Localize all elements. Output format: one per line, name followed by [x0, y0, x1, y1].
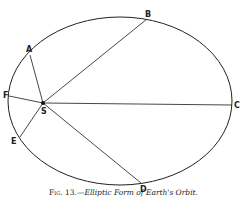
label-a: A	[26, 45, 33, 54]
label-b: B	[145, 10, 151, 19]
label-c: C	[234, 101, 240, 110]
sun-point	[41, 101, 45, 105]
label-s: S	[41, 107, 47, 116]
orbit-ellipse	[8, 17, 232, 185]
caption-title: Elliptic Form of Earth's Orbit.	[84, 188, 198, 197]
radius-lines	[9, 19, 232, 183]
figure-caption: Fig. 13.—Elliptic Form of Earth's Orbit.	[0, 188, 247, 197]
orbit-diagram: A B C D E F S	[0, 0, 247, 203]
label-f: F	[3, 91, 8, 100]
label-e: E	[11, 137, 16, 146]
caption-prefix: Fig. 13.—	[49, 188, 84, 197]
